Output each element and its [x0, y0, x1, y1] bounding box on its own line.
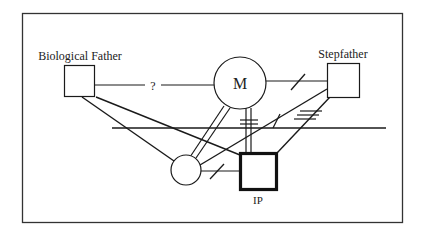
label-biological-father: Biological Father: [38, 49, 122, 63]
diagram-frame: [23, 14, 403, 223]
edge-mother-sibling-a: [190, 106, 224, 157]
edge-biofather-sibling: [82, 97, 174, 161]
label-ip: IP: [253, 194, 263, 206]
node-stepfather: [328, 64, 360, 98]
genogram-diagram: Biological Father ? M Stepfather IP: [0, 0, 423, 237]
label-mother: M: [233, 75, 247, 92]
node-biological-father: [65, 66, 95, 97]
edge-stepfather-ip: [277, 97, 330, 153]
node-sibling: [171, 155, 201, 185]
label-stepfather: Stepfather: [318, 47, 367, 61]
label-unknown-relationship: ?: [150, 79, 155, 93]
cutoff-mark-mother-stepfather: [291, 74, 305, 90]
node-ip: [241, 154, 277, 190]
